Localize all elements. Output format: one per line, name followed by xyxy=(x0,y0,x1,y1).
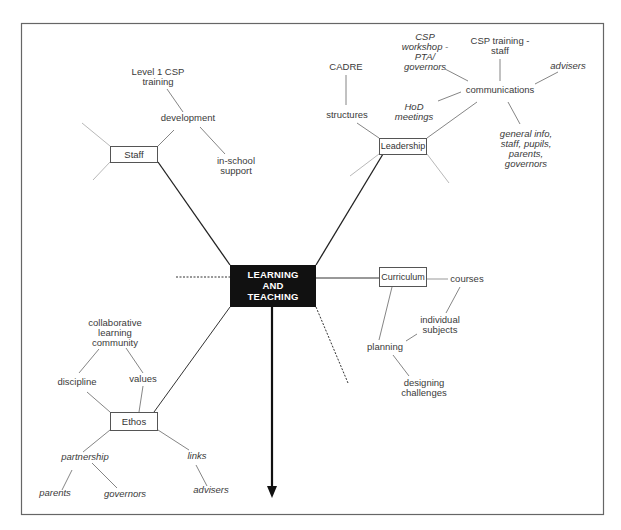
node-csp-training-staff: CSP training - staff xyxy=(471,36,530,56)
node-leadership: Leadership xyxy=(379,138,427,155)
node-designing-challenges: designing challenges xyxy=(401,378,446,398)
node-cadre: CADRE xyxy=(329,62,362,72)
node-communications: communications xyxy=(466,85,535,95)
node-level1-csp-training: Level 1 CSP training xyxy=(132,67,185,87)
node-collaborative-learning-community: collaborative learning community xyxy=(88,318,141,348)
node-curriculum: Curriculum xyxy=(379,267,427,287)
center-node-learning-teaching: LEARNING AND TEACHING xyxy=(230,265,316,307)
node-csp-workshop: CSP workshop - PTA/ governors xyxy=(402,32,448,72)
node-advisers-leadership: advisers xyxy=(550,61,585,71)
node-general-info: general info, staff, pupils, parents, go… xyxy=(500,129,552,169)
node-structures: structures xyxy=(326,110,368,120)
node-hod-meetings: HoD meetings xyxy=(395,102,434,122)
node-planning: planning xyxy=(367,342,403,352)
node-development: development xyxy=(161,113,215,123)
node-partnership: partnership xyxy=(61,452,109,462)
node-staff: Staff xyxy=(110,146,158,163)
node-in-school-support: in-school support xyxy=(217,156,255,176)
node-discipline: discipline xyxy=(57,377,96,387)
node-courses: courses xyxy=(450,274,483,284)
mind-map-diagram: LEARNING AND TEACHING Staff Level 1 CSP … xyxy=(0,0,621,530)
node-individual-subjects: individual subjects xyxy=(420,315,460,335)
node-governors: governors xyxy=(104,489,146,499)
node-advisers-ethos: advisers xyxy=(193,485,228,495)
node-values: values xyxy=(129,374,156,384)
node-links: links xyxy=(187,451,206,461)
node-parents: parents xyxy=(39,488,71,498)
node-ethos: Ethos xyxy=(110,412,158,431)
